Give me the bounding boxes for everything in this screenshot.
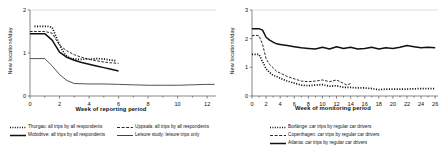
svg-text:2: 2 [245, 36, 248, 42]
plot-area-left: 012024681012 [0, 0, 222, 118]
legend-swatch-dashed-icon [270, 133, 286, 138]
svg-text:1: 1 [245, 64, 248, 70]
legend-right: Borlänge: car trips by regular car drive… [222, 120, 444, 155]
legend-label: Copenhagen: car trips by regular car dri… [288, 132, 379, 138]
legend-label: Thurgau: all trips by all respondents [28, 124, 102, 130]
legend-swatch-solid-thick-icon [10, 133, 26, 138]
panel-right: 012302468101214161820222426 New location… [222, 0, 444, 155]
legend-swatch-dotted-icon [270, 125, 286, 130]
legend-item-leisure-study: Leisure study: leisure trips only [117, 132, 199, 138]
legend-label: Leisure study: leisure trips only [135, 132, 199, 138]
legend-label: Mobidrive: all trips by all respondents [28, 132, 105, 138]
legend-left: Thurgau: all trips by all respondents Up… [0, 120, 222, 155]
legend-swatch-solid-thin-icon [117, 133, 133, 138]
svg-text:1: 1 [23, 50, 26, 56]
legend-swatch-solid-thick-icon [270, 141, 286, 146]
legend-label: Borlänge: car trips by regular car drive… [288, 124, 371, 130]
legend-swatch-dashed-icon [117, 125, 133, 130]
y-axis-label-left: New locations/day [7, 8, 17, 94]
legend-item-copenhagen: Copenhagen: car trips by regular car dri… [270, 132, 379, 138]
svg-text:0: 0 [245, 93, 248, 99]
figure-two-panel-line-charts: 012024681012 New locations/day Week of r… [0, 0, 444, 155]
legend-item-borlange: Borlänge: car trips by regular car drive… [270, 124, 371, 130]
plot-area-right: 012302468101214161820222426 [222, 0, 444, 118]
svg-text:0: 0 [23, 93, 26, 99]
legend-item-atlanta: Atlanta: car trips by regular car driver… [270, 140, 367, 146]
legend-label: Uppsala: all trips by all respondents [135, 124, 209, 130]
legend-item-mobidrive: Mobidrive: all trips by all respondents [10, 132, 105, 138]
legend-item-thurgau: Thurgau: all trips by all respondents [10, 124, 102, 130]
svg-text:3: 3 [245, 7, 248, 13]
panel-left: 012024681012 New locations/day Week of r… [0, 0, 222, 155]
chart-svg-right: 012302468101214161820222426 [222, 0, 444, 118]
x-axis-label-left: Week of reporting period [0, 106, 222, 112]
legend-label: Atlanta: car trips by regular car driver… [288, 140, 367, 146]
legend-item-uppsala: Uppsala: all trips by all respondents [117, 124, 209, 130]
x-axis-label-right: Week of monitoring period [222, 105, 444, 111]
chart-svg-left: 012024681012 [0, 0, 222, 118]
y-axis-label-right: New locations/day [229, 8, 239, 94]
legend-swatch-dotted-icon [10, 125, 26, 130]
svg-text:2: 2 [23, 7, 26, 13]
